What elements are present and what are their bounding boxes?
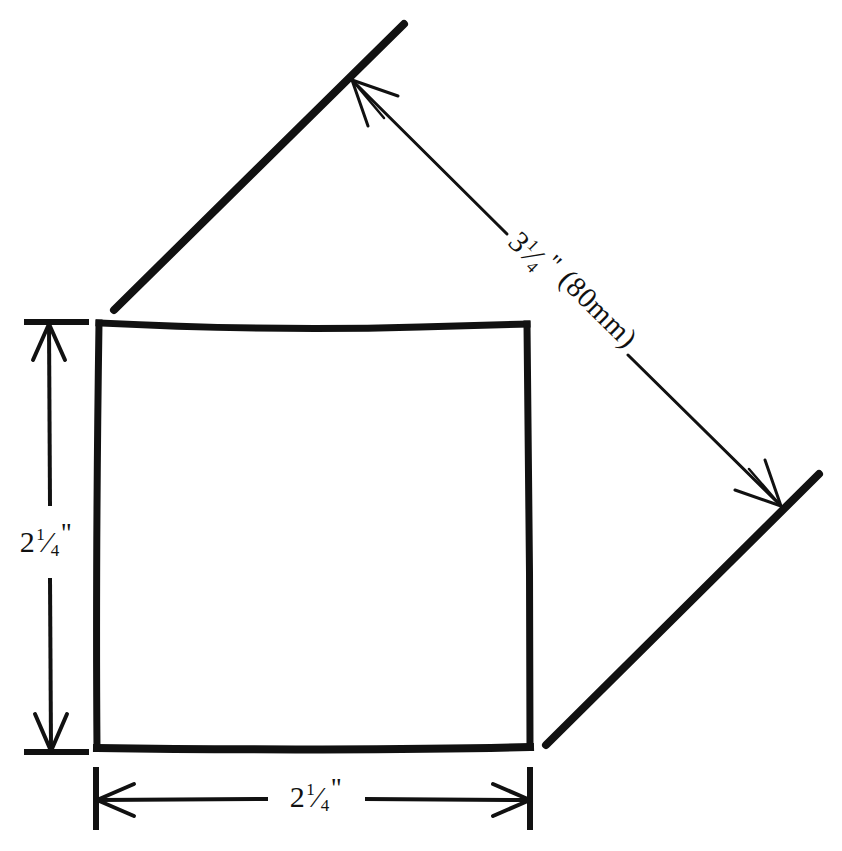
square-right-edge xyxy=(527,324,530,747)
width-dimension-line-left xyxy=(99,799,268,800)
diagonal-leader-lower-segment xyxy=(628,355,777,502)
technical-drawing-canvas: 31⁄4"(80mm) 21⁄4" xyxy=(0,0,842,851)
lower-extension-line xyxy=(546,474,819,745)
upper-extension-line xyxy=(114,24,404,310)
height-whole-number: 2 xyxy=(20,525,36,558)
height-dimension-line-upper xyxy=(49,325,50,506)
square-left-edge xyxy=(97,323,99,748)
height-fraction-numerator: 1 xyxy=(36,525,45,544)
diagonal-leader-upper-segment xyxy=(355,83,507,234)
width-whole-number: 2 xyxy=(290,780,306,813)
width-fraction-numerator: 1 xyxy=(306,780,315,799)
square-outline xyxy=(97,323,530,749)
height-inch-mark: " xyxy=(61,518,73,548)
diagonal-extension-lines xyxy=(114,24,819,745)
height-dimension-line-lower xyxy=(50,578,51,749)
width-inch-mark: " xyxy=(331,773,343,803)
height-fraction-denominator: 4 xyxy=(51,541,60,560)
height-dimension-label: 21⁄4" xyxy=(20,518,73,560)
svg-text:31⁄4"(80mm): 31⁄4"(80mm) xyxy=(501,219,644,362)
width-dimension-line-right xyxy=(365,799,528,800)
dimensioned-square-figure: 31⁄4"(80mm) 21⁄4" xyxy=(0,0,842,851)
height-dimension: 21⁄4" xyxy=(20,322,86,752)
width-fraction-denominator: 4 xyxy=(321,796,330,815)
width-dimension-label: 21⁄4" xyxy=(290,773,343,815)
square-top-edge xyxy=(99,323,527,328)
square-bottom-edge xyxy=(97,747,530,749)
diagonal-metric-value: (80mm) xyxy=(553,263,645,355)
diagonal-inch-mark: " xyxy=(539,249,568,278)
width-dimension: 21⁄4" xyxy=(96,770,530,827)
diagonal-dimension-label: 31⁄4"(80mm) xyxy=(501,219,644,362)
